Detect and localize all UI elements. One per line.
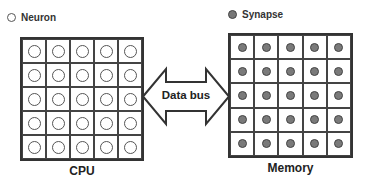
cpu-cell — [70, 135, 94, 159]
synapse-icon — [310, 43, 319, 52]
synapse-icon — [262, 115, 271, 124]
neuron-icon — [76, 117, 89, 130]
synapse-icon — [286, 43, 295, 52]
neuron-icon — [124, 141, 137, 154]
neuron-icon — [76, 69, 89, 82]
memory-cell — [254, 132, 278, 156]
neuron-icon — [76, 93, 89, 106]
synapse-icon — [286, 91, 295, 100]
neuron-icon — [100, 69, 113, 82]
cpu-neuron-grid — [20, 37, 144, 161]
cpu-cell — [118, 87, 142, 111]
cpu-cell — [46, 135, 70, 159]
cpu-cell — [118, 39, 142, 63]
memory-label: Memory — [228, 161, 353, 175]
synapse-icon — [238, 91, 247, 100]
cpu-cell — [94, 111, 118, 135]
cpu-cell — [94, 39, 118, 63]
cpu-cell — [22, 111, 46, 135]
cpu-cell — [118, 63, 142, 87]
neuron-icon — [52, 93, 65, 106]
synapse-icon — [334, 139, 343, 148]
cpu-cell — [94, 135, 118, 159]
memory-cell — [278, 132, 302, 156]
cpu-cell — [118, 135, 142, 159]
cpu-cell — [46, 39, 70, 63]
synapse-icon — [334, 67, 343, 76]
neuron-legend-icon — [7, 13, 16, 22]
synapse-icon — [286, 115, 295, 124]
neuron-icon — [124, 93, 137, 106]
data-bus-label: Data bus — [141, 89, 231, 101]
neuron-icon — [124, 45, 137, 58]
neuron-icon — [52, 117, 65, 130]
cpu-cell — [22, 39, 46, 63]
cpu-cell — [46, 87, 70, 111]
memory-cell — [254, 83, 278, 107]
synapse-icon — [262, 67, 271, 76]
synapse-icon — [334, 115, 343, 124]
cpu-cell — [70, 87, 94, 111]
memory-cell — [327, 83, 351, 107]
neuron-icon — [100, 117, 113, 130]
cpu-cell — [46, 111, 70, 135]
cpu-cell — [22, 87, 46, 111]
cpu-cell — [22, 135, 46, 159]
synapse-icon — [310, 139, 319, 148]
synapse-icon — [262, 91, 271, 100]
synapse-icon — [310, 67, 319, 76]
cpu-cell — [94, 63, 118, 87]
memory-cell — [278, 83, 302, 107]
memory-cell — [327, 108, 351, 132]
memory-cell — [230, 108, 254, 132]
memory-cell — [278, 108, 302, 132]
cpu-cell — [70, 39, 94, 63]
cpu-cell — [118, 111, 142, 135]
cpu-cell — [94, 87, 118, 111]
memory-cell — [303, 83, 327, 107]
memory-cell — [230, 83, 254, 107]
cpu-cell — [46, 63, 70, 87]
synapse-icon — [286, 67, 295, 76]
synapse-icon — [238, 43, 247, 52]
memory-cell — [254, 108, 278, 132]
synapse-icon — [238, 139, 247, 148]
synapse-icon — [286, 139, 295, 148]
neuron-icon — [124, 69, 137, 82]
cpu-label: CPU — [20, 164, 144, 178]
legend-synapse-label: Synapse — [242, 9, 283, 20]
memory-cell — [327, 59, 351, 83]
synapse-icon — [310, 115, 319, 124]
memory-cell — [303, 108, 327, 132]
cpu-cell — [22, 63, 46, 87]
neuron-icon — [52, 45, 65, 58]
memory-cell — [278, 35, 302, 59]
neuron-icon — [76, 141, 89, 154]
neuron-icon — [28, 141, 41, 154]
synapse-icon — [262, 43, 271, 52]
memory-cell — [230, 132, 254, 156]
neuron-icon — [124, 117, 137, 130]
memory-cell — [254, 35, 278, 59]
neuron-icon — [76, 45, 89, 58]
cpu-cell — [70, 63, 94, 87]
synapse-icon — [238, 115, 247, 124]
legend-neuron-label: Neuron — [21, 12, 56, 23]
cpu-cell — [70, 111, 94, 135]
synapse-legend-icon — [228, 10, 237, 19]
neuron-icon — [28, 117, 41, 130]
legend-neuron: Neuron — [7, 12, 56, 23]
memory-synapse-grid — [228, 33, 353, 158]
memory-cell — [303, 59, 327, 83]
neuron-icon — [52, 69, 65, 82]
neuron-icon — [52, 141, 65, 154]
memory-cell — [327, 132, 351, 156]
legend-synapse: Synapse — [228, 9, 283, 20]
memory-cell — [278, 59, 302, 83]
neuron-icon — [100, 141, 113, 154]
neuron-icon — [100, 45, 113, 58]
neuron-icon — [100, 93, 113, 106]
synapse-icon — [238, 67, 247, 76]
synapse-icon — [310, 91, 319, 100]
memory-cell — [254, 59, 278, 83]
